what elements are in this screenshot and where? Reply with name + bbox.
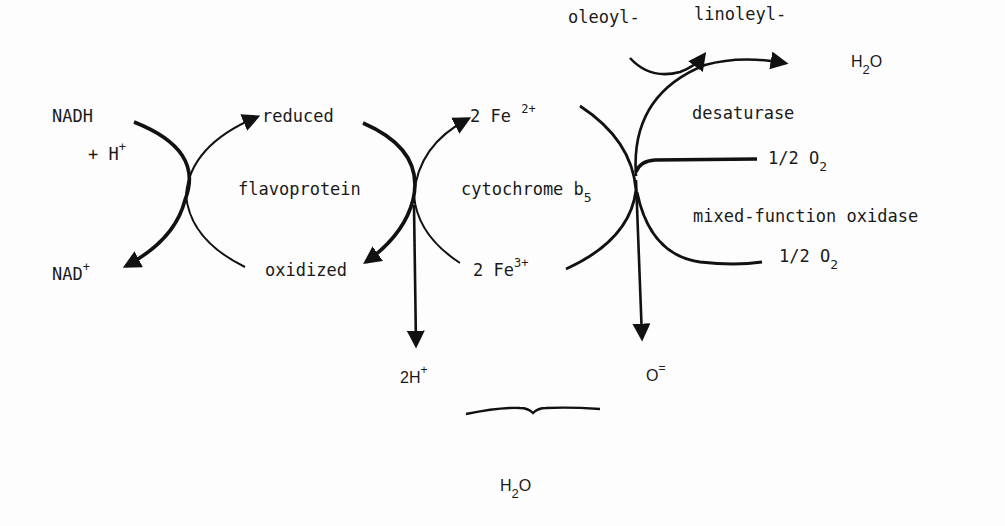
oxygen-upper-label: 1/2 O2 <box>768 150 827 167</box>
fe2-text: 2 Fe <box>470 106 511 126</box>
mfo-arc <box>637 192 762 264</box>
flavoprotein-label: flavoprotein <box>238 181 361 198</box>
h-plus-label: + H+ <box>88 146 126 163</box>
fe3-charge: 3+ <box>514 256 528 270</box>
water-bottom-label: H2O <box>500 478 531 494</box>
water-top-h: H <box>851 53 863 70</box>
cytochrome-text: cytochrome b <box>461 179 584 199</box>
flavo-reduced-label: reduced <box>262 108 334 125</box>
oxygen-lower-subscript: 2 <box>830 257 838 272</box>
fe3-label: 2 Fe3+ <box>473 262 528 279</box>
water-bottom-h: H <box>500 477 512 494</box>
flavo-oxidized-label: oxidized <box>265 262 347 279</box>
water-top-o: O <box>870 53 882 70</box>
oxide-text: O <box>646 367 658 384</box>
nadh-label: NADH <box>52 108 93 125</box>
water-bottom-subscript: 2 <box>512 486 519 501</box>
fe2-label: 2 Fe 2+ <box>470 108 536 125</box>
proton-release-arrow <box>414 205 416 345</box>
fe3-to-fe2-arrow <box>414 119 468 263</box>
linoleyl-label: linoleyl- <box>694 6 786 23</box>
fe3-text: 2 Fe <box>473 260 514 280</box>
water-formation-brace <box>466 408 600 414</box>
water-top-label: H2O <box>851 54 882 70</box>
nad-text: NAD <box>52 264 83 284</box>
nad-charge: + <box>83 260 90 274</box>
oxygen-lower-text: 1/2 O <box>779 246 830 266</box>
h-plus-prefix: + H <box>88 144 119 164</box>
two-h-plus-label: 2H+ <box>400 370 427 386</box>
oxygen-lower-label: 1/2 O2 <box>779 248 838 265</box>
water-bottom-o: O <box>519 477 531 494</box>
nad-plus-label: NAD+ <box>52 266 90 283</box>
h-plus-charge: + <box>119 140 126 154</box>
two-h-charge: + <box>420 363 427 377</box>
two-h-text: 2H <box>400 369 420 386</box>
oxide-label: O= <box>646 368 665 384</box>
fe2-charge: 2+ <box>521 102 535 116</box>
oxygen-upper-text: 1/2 O <box>768 148 819 168</box>
nadh-to-nad-arrow <box>126 122 189 266</box>
desaturase-label: desaturase <box>692 105 794 122</box>
mixed-function-oxidase-label: mixed-function oxidase <box>693 208 918 225</box>
flavo-reduced-to-oxidized-arrow <box>363 123 415 262</box>
oxygen-upper-subscript: 2 <box>819 159 827 174</box>
oxygen-upper-line <box>636 159 757 172</box>
cytochrome-subscript: 5 <box>584 190 592 205</box>
oleoyl-label: oleoyl- <box>568 9 640 26</box>
oxide-charge: = <box>658 361 665 375</box>
cytochrome-b5-label: cytochrome b5 <box>461 181 592 198</box>
water-top-subscript: 2 <box>863 62 870 77</box>
